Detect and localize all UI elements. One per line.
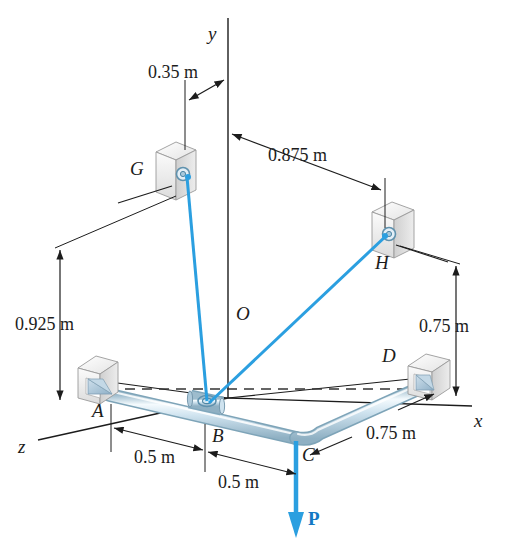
axis-label-y: y [208, 23, 216, 45]
force-label-P: P [308, 508, 320, 530]
dimension-line-0.5m-BC [208, 452, 296, 474]
engineering-diagram: y x z O G H A B C D 0.35 m 0.875 m 0.925… [0, 0, 506, 560]
dimension-label-0.925m: 0.925 m [15, 314, 74, 335]
dimension-label-0.35m: 0.35 m [148, 62, 198, 83]
axis-label-x: x [474, 410, 482, 432]
point-label-O: O [236, 303, 250, 325]
dimension-label-0.75m-CD: 0.75 m [366, 423, 416, 444]
point-label-C: C [302, 444, 315, 466]
axis-label-z: z [18, 436, 25, 458]
point-label-A: A [92, 400, 104, 422]
dimension-label-0.75m-vertical: 0.75 m [419, 316, 469, 337]
dimension-label-0.875m: 0.875 m [268, 145, 327, 166]
dimension-line-0.35m [185, 80, 224, 150]
cable-BG [187, 177, 207, 401]
point-label-B: B [212, 425, 224, 447]
dimension-label-0.5m-AB: 0.5 m [134, 447, 175, 468]
point-label-D: D [382, 345, 396, 367]
bearing-support-D [408, 354, 450, 400]
point-label-G: G [130, 158, 144, 180]
dimension-label-0.5m-BC: 0.5 m [218, 472, 259, 493]
point-label-H: H [375, 252, 389, 274]
